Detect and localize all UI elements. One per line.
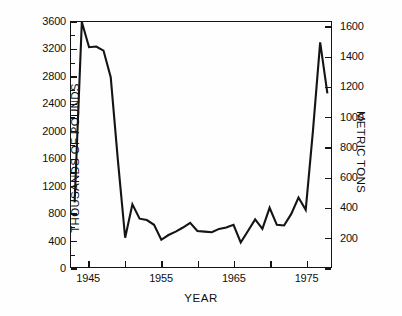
x-axis-tick [88,261,89,267]
y-axis-right-tick-label: 1200 [340,80,364,92]
y-axis-right-tick [325,178,331,179]
y-axis-right-tick-label: 1400 [340,50,364,62]
y-axis-right-tick [325,87,331,88]
x-axis-tick [270,261,271,267]
x-axis-tick [307,261,308,267]
y-axis-right-tick [325,117,331,118]
y-axis-left-minor-tick [71,172,75,173]
y-axis-right-tick-label: 200 [340,232,358,244]
y-axis-left-tick [71,241,77,242]
y-axis-left-tick-label: 2800 [42,70,66,82]
y-axis-left-tick [71,49,77,50]
y-axis-left-minor-tick [71,227,75,228]
y-axis-left-tick [71,21,77,22]
y-axis-left-minor-tick [71,200,75,201]
x-axis-tick [198,261,199,267]
y-axis-left-tick-label: 2000 [42,125,66,137]
x-axis-tick-label: 1975 [295,272,319,284]
y-axis-left-tick-label: 2400 [42,97,66,109]
y-axis-left-tick-label: 3600 [42,15,66,27]
y-axis-right-tick [325,268,331,269]
y-axis-right-tick [325,208,331,209]
x-axis-tick-label: 1965 [222,272,246,284]
y-axis-left-tick-label: 3200 [42,42,66,54]
y-axis-left-tick-label: 1600 [42,152,66,164]
y-axis-left-tick [71,104,77,105]
x-axis-tick [161,261,162,267]
y-axis-left-title-container: THOUSANDS OF POUNDS [2,0,24,316]
y-axis-right-tick-label: 400 [340,201,358,213]
y-axis-right-tick [325,57,331,58]
y-axis-left-minor-tick [71,35,75,36]
y-axis-left-tick [71,131,77,132]
y-axis-left-tick [71,76,77,77]
y-axis-right-tick-label: 800 [340,141,358,153]
plot-area [70,21,332,268]
y-axis-right-tick-label: 600 [340,171,358,183]
x-axis-tick-label: 1945 [76,272,100,284]
y-axis-left-minor-tick [71,255,75,256]
y-axis-left-tick-label: 800 [48,207,66,219]
x-axis-tick [125,261,126,267]
y-axis-left-minor-tick [71,63,75,64]
y-axis-right-tick [325,147,331,148]
y-axis-right-tick [325,26,331,27]
y-axis-right-title-container: METRIC TONS [378,0,400,316]
y-axis-right-tick-label: 1600 [340,20,364,32]
y-axis-left-tick [71,213,77,214]
y-axis-right-tick [325,238,331,239]
y-axis-left-tick-label: 400 [48,235,66,247]
y-axis-right-tick-label: 1000 [340,111,364,123]
y-axis-left-minor-tick [71,145,75,146]
data-line-series [71,22,331,267]
y-axis-left-minor-tick [71,117,75,118]
chart-figure: THOUSANDS OF POUNDS METRIC TONS YEAR 040… [0,0,402,316]
y-axis-left-tick [71,268,77,269]
x-axis-title: YEAR [184,292,218,304]
x-axis-tick [234,261,235,267]
y-axis-left-tick-label: 1200 [42,180,66,192]
x-axis-tick-label: 1955 [149,272,173,284]
y-axis-left-minor-tick [71,90,75,91]
y-axis-left-tick-label: 0 [60,262,66,274]
y-axis-left-tick [71,186,77,187]
y-axis-left-tick [71,159,77,160]
